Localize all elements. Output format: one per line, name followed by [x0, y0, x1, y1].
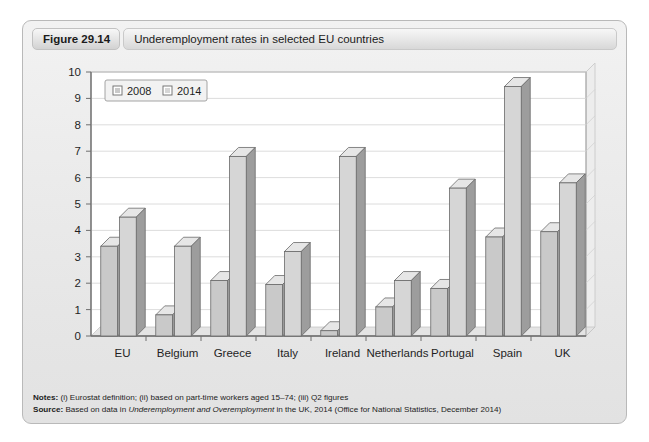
bar-front-face [174, 246, 191, 336]
bar-eu-2014[interactable] [119, 208, 145, 336]
bar-front-face [229, 156, 246, 336]
legend-label-2014: 2014 [177, 85, 201, 97]
notes-text: (i) Eurostat definition; (ii) based on p… [60, 393, 348, 402]
bar-side-face [576, 174, 585, 336]
chart-legend: 20082014 [105, 80, 207, 101]
y-axis-tick-label: 6 [75, 172, 81, 184]
y-axis-tick-label: 4 [75, 224, 82, 236]
bar-front-face [376, 307, 393, 336]
bar-side-face [191, 237, 200, 336]
bar-spain-2014[interactable] [504, 78, 530, 336]
x-axis-label-spain: Spain [493, 347, 522, 359]
bar-side-face [246, 147, 255, 336]
y-axis-tick-label: 9 [75, 92, 81, 104]
bar-front-face [339, 156, 356, 336]
y-axis-tick-label: 1 [75, 304, 81, 316]
x-axis-label-netherlands: Netherlands [366, 347, 428, 359]
bar-front-face [449, 188, 466, 336]
bar-front-face [559, 183, 576, 336]
bar-ireland-2014[interactable] [339, 147, 365, 336]
x-axis-label-belgium: Belgium [157, 347, 199, 359]
x-axis-label-italy: Italy [277, 347, 298, 359]
bar-front-face [119, 217, 136, 336]
bar-front-face [486, 237, 503, 336]
bar-front-face [504, 87, 521, 336]
bar-side-face [521, 78, 530, 336]
bar-front-face [101, 246, 118, 336]
bar-belgium-2014[interactable] [174, 237, 200, 336]
y-axis-tick-label: 3 [75, 251, 81, 263]
figure-number-badge: Figure 29.14 [32, 28, 120, 50]
y-axis-tick-label: 7 [75, 145, 81, 157]
legend-label-2008: 2008 [127, 85, 151, 97]
bar-front-face [266, 285, 283, 336]
bar-front-face [284, 252, 301, 336]
x-axis-label-portugal: Portugal [431, 347, 474, 359]
bar-front-face [211, 281, 228, 336]
bar-netherlands-2014[interactable] [394, 272, 420, 336]
x-axis-label-eu: EU [115, 347, 131, 359]
y-axis-tick-label: 8 [75, 119, 81, 131]
notes-label: Notes: [33, 393, 58, 402]
notes-line: Notes: (i) Eurostat definition; (ii) bas… [33, 392, 616, 403]
bar-side-face [466, 179, 475, 336]
figure-panel: Figure 29.14 Underemployment rates in se… [22, 20, 627, 424]
source-italic-title: Underemployment and Overemployment [128, 405, 274, 414]
source-line: Source: Based on data in Underemployment… [33, 404, 616, 415]
y-axis-tick-label: 5 [75, 198, 81, 210]
source-prefix: Based on data in [65, 405, 128, 414]
chart-area: 012345678910EUBelgiumGreeceItalyIrelandN… [23, 54, 627, 394]
figure-footnotes: Notes: (i) Eurostat definition; (ii) bas… [33, 392, 616, 415]
bar-portugal-2014[interactable] [449, 179, 475, 336]
bar-front-face [394, 281, 411, 336]
y-axis-tick-label: 10 [68, 66, 81, 78]
figure-caption-bar: Figure 29.14 Underemployment rates in se… [32, 28, 617, 50]
source-label: Source: [33, 405, 63, 414]
bar-side-face [356, 147, 365, 336]
x-axis-label-greece: Greece [214, 347, 252, 359]
bar-chart: 012345678910EUBelgiumGreeceItalyIrelandN… [23, 54, 627, 394]
bar-side-face [301, 243, 310, 336]
bar-greece-2014[interactable] [229, 147, 255, 336]
bar-uk-2014[interactable] [559, 174, 585, 336]
figure-caption-text: Underemployment rates in selected EU cou… [123, 28, 617, 50]
bar-front-face [541, 232, 558, 336]
bar-front-face [431, 288, 448, 336]
bar-side-face [411, 272, 420, 336]
bar-side-face [136, 208, 145, 336]
x-axis-label-ireland: Ireland [325, 347, 360, 359]
legend-swatch-fill-2014 [165, 88, 170, 93]
x-axis-label-uk: UK [555, 347, 571, 359]
y-axis-tick-label: 0 [75, 330, 81, 342]
y-axis-tick-label: 2 [75, 277, 81, 289]
legend-swatch-fill-2008 [115, 88, 120, 93]
bar-front-face [156, 315, 173, 336]
source-suffix: in the UK, 2014 (Office for National Sta… [274, 405, 501, 414]
bar-front-face [321, 331, 338, 336]
bar-italy-2014[interactable] [284, 243, 310, 336]
